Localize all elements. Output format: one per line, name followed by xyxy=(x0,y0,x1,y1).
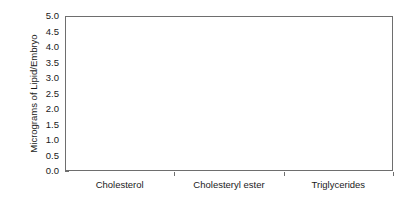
y-axis-tick-label: 1.0 xyxy=(33,135,59,145)
x-axis-category-label: Triglycerides xyxy=(284,179,393,190)
y-axis-tick-label: 1.5 xyxy=(33,120,59,130)
y-axis-tick-label: 3.0 xyxy=(33,73,59,83)
x-axis-tick-mark xyxy=(174,172,175,176)
y-axis-tick-label: 0.5 xyxy=(33,151,59,161)
y-axis-tick-label: 4.5 xyxy=(33,27,59,37)
x-axis-category-label: Cholesterol xyxy=(65,179,174,190)
plot-area xyxy=(65,16,393,171)
y-axis-tick-label: 2.0 xyxy=(33,104,59,114)
x-axis-category-label: Cholesteryl ester xyxy=(174,179,283,190)
y-axis-tick-mark xyxy=(65,171,69,172)
bar-chart-figure: Micrograms of Lipid/Embryo 0.00.51.01.52… xyxy=(0,0,409,206)
y-axis-tick-label: 5.0 xyxy=(33,11,59,21)
y-axis-tick-label: 2.5 xyxy=(33,89,59,99)
y-axis-tick-label: 3.5 xyxy=(33,58,59,68)
y-axis-tick-label: 0.0 xyxy=(33,166,59,176)
x-axis-tick-mark xyxy=(284,172,285,176)
y-axis-tick-label: 4.0 xyxy=(33,42,59,52)
x-axis-tick-mark xyxy=(393,172,394,176)
